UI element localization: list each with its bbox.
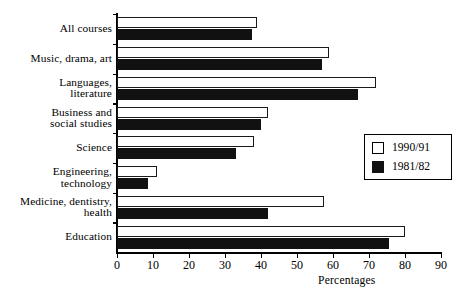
x-axis-tick-label: 50 — [277, 258, 317, 272]
bar-group — [117, 222, 441, 252]
category-label: Engineering,technology — [0, 166, 112, 189]
bar-1990-91-0 — [117, 17, 257, 28]
legend-entry-1981-82: 1981/82 — [372, 160, 430, 174]
category-label: All courses — [0, 23, 112, 35]
legend: 1990/91 1981/82 — [364, 134, 452, 180]
category-label: Medicine, dentistry,health — [0, 196, 112, 219]
category-label: Business andsocial studies — [0, 107, 112, 130]
bar-1990-91-4 — [117, 136, 254, 147]
x-axis-tick-label: 0 — [97, 258, 137, 272]
legend-swatch-solid — [372, 161, 384, 173]
category-axis-labels: All coursesMusic, drama, artLanguages,li… — [0, 14, 112, 252]
legend-entry-1990-91: 1990/91 — [372, 141, 430, 155]
bar-1990-91-7 — [117, 226, 405, 237]
x-axis-tick-label: 10 — [133, 258, 173, 272]
category-label: Languages,literature — [0, 77, 112, 100]
bar-group — [117, 193, 441, 223]
x-axis-tick-label: 70 — [349, 258, 389, 272]
x-axis-tick-label: 30 — [205, 258, 245, 272]
x-axis-tick-label: 60 — [313, 258, 353, 272]
bar-1990-91-1 — [117, 47, 329, 58]
legend-swatch-open — [372, 142, 384, 154]
legend-label-1981-82: 1981/82 — [392, 161, 430, 173]
bar-1990-91-6 — [117, 196, 324, 207]
bar-1981-82-4 — [117, 148, 236, 159]
x-axis-tick-label: 80 — [385, 258, 425, 272]
bar-group — [117, 74, 441, 104]
bar-group — [117, 103, 441, 133]
bar-1981-82-5 — [117, 178, 148, 189]
bar-1990-91-2 — [117, 77, 376, 88]
horizontal-bar-chart: All coursesMusic, drama, artLanguages,li… — [0, 0, 467, 299]
category-label: Education — [0, 231, 112, 243]
bar-1981-82-3 — [117, 119, 261, 130]
plot-area — [117, 14, 441, 252]
x-axis-tick-label: 90 — [421, 258, 461, 272]
legend-label-1990-91: 1990/91 — [392, 142, 430, 154]
bar-group — [117, 44, 441, 74]
bar-group — [117, 14, 441, 44]
bar-1990-91-3 — [117, 107, 268, 118]
category-label: Music, drama, art — [0, 53, 112, 65]
bar-1981-82-1 — [117, 59, 322, 70]
bar-1981-82-2 — [117, 89, 358, 100]
category-label: Science — [0, 142, 112, 154]
x-axis-title: Percentages — [318, 274, 376, 287]
x-axis-line — [116, 252, 442, 254]
x-axis-tick-label: 40 — [241, 258, 281, 272]
bar-1981-82-0 — [117, 29, 252, 40]
bar-1981-82-6 — [117, 208, 268, 219]
x-axis-tick-label: 20 — [169, 258, 209, 272]
bar-1981-82-7 — [117, 238, 389, 249]
bar-1990-91-5 — [117, 166, 157, 177]
